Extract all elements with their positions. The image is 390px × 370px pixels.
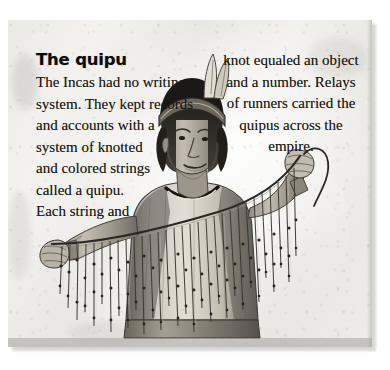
- left-text-column: The quipu The Incas had no writing syste…: [36, 50, 216, 223]
- body-line: system. They kept records: [36, 94, 216, 116]
- body-line: quipus across the: [216, 115, 366, 137]
- body-line: empire.: [216, 136, 366, 158]
- body-line: called a quipu.: [36, 180, 216, 202]
- article-panel: The quipu The Incas had no writing syste…: [8, 20, 372, 347]
- body-line: and colored strings: [36, 158, 216, 180]
- right-text-column: knot equaled an object and a number. Rel…: [216, 50, 366, 158]
- page-bottom-edge: [8, 338, 372, 347]
- body-line: The Incas had no writing: [36, 72, 216, 94]
- body-line: system of knotted: [36, 137, 216, 159]
- page-title: The quipu: [36, 50, 216, 70]
- body-line: and a number. Relays: [216, 72, 366, 94]
- page-right-edge: [367, 20, 372, 347]
- body-line: knot equaled an object: [216, 50, 366, 72]
- body-line: and accounts with a: [36, 115, 216, 137]
- scanned-book-page: The quipu The Incas had no writing syste…: [0, 0, 390, 370]
- body-line: of runners carried the: [216, 93, 366, 115]
- body-line: Each string and: [36, 201, 216, 223]
